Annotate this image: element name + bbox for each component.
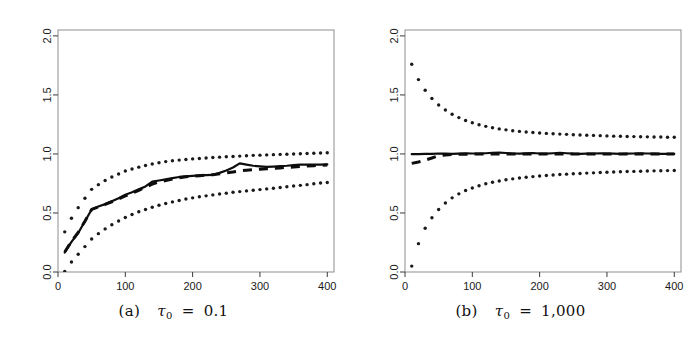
panel-a-caption-value: 0.1 (204, 302, 229, 320)
svg-text:2.0: 2.0 (41, 28, 53, 43)
svg-text:300: 300 (598, 280, 616, 292)
chart-panel-b: 01002003004000.00.51.01.52.0 (b) τ0 = 1,… (347, 0, 694, 355)
svg-text:1.5: 1.5 (41, 87, 53, 102)
panel-b-caption-value: 1,000 (541, 302, 585, 320)
panel-b-caption-label: (b) (455, 302, 477, 320)
panel-a-caption-label: (a) (119, 302, 141, 320)
figure-container: 01002003004000.00.51.01.52.0 (a) τ0 = 0.… (0, 0, 694, 355)
svg-text:100: 100 (463, 280, 481, 292)
svg-text:200: 200 (530, 280, 548, 292)
svg-text:0.0: 0.0 (41, 264, 53, 279)
svg-text:300: 300 (251, 280, 269, 292)
plot-area-a: 01002003004000.00.51.01.52.0 (0, 0, 347, 300)
panel-b-caption-equals: = (519, 302, 532, 320)
chart-panel-a: 01002003004000.00.51.01.52.0 (a) τ0 = 0.… (0, 0, 347, 355)
plot-area-b: 01002003004000.00.51.01.52.0 (347, 0, 694, 300)
svg-text:0: 0 (402, 280, 408, 292)
svg-text:0.5: 0.5 (388, 205, 400, 220)
svg-text:2.0: 2.0 (388, 28, 400, 43)
svg-text:0.5: 0.5 (41, 205, 53, 220)
svg-text:400: 400 (665, 280, 683, 292)
svg-text:1.0: 1.0 (41, 146, 53, 161)
svg-text:400: 400 (318, 280, 336, 292)
panel-b-caption-symbol: τ0 (495, 302, 510, 320)
svg-text:0.0: 0.0 (388, 264, 400, 279)
panel-b-caption: (b) τ0 = 1,000 (347, 302, 694, 320)
svg-text:200: 200 (183, 280, 201, 292)
panel-a-caption: (a) τ0 = 0.1 (0, 302, 347, 320)
panel-a-caption-equals: = (182, 302, 195, 320)
svg-text:1.5: 1.5 (388, 87, 400, 102)
svg-text:0: 0 (55, 280, 61, 292)
svg-text:1.0: 1.0 (388, 146, 400, 161)
panel-a-caption-symbol: τ0 (157, 302, 172, 320)
svg-text:100: 100 (116, 280, 134, 292)
